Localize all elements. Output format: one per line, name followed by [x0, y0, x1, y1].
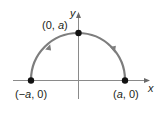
y-axis-label: y [69, 7, 77, 19]
x-axis-label: x [147, 82, 154, 94]
point-top-label: (0, a) [42, 19, 68, 31]
point-right-label: (a, 0) [113, 88, 139, 100]
semicircle-diagram: y x (0, a) (−a, 0) (a, 0) [0, 0, 163, 113]
point-right [122, 77, 128, 83]
y-axis-arrow-icon [76, 12, 81, 18]
point-left [28, 77, 34, 83]
point-left-label: (−a, 0) [15, 88, 47, 100]
point-top [75, 30, 81, 36]
